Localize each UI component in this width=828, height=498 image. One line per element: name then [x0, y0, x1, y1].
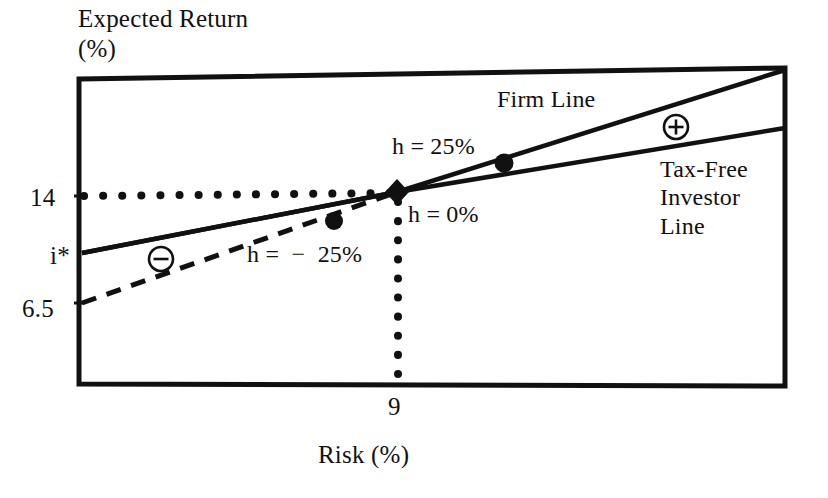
label-h-neg-25: h = − 25% [247, 240, 362, 268]
y-tick-label-istar: i* [50, 241, 70, 271]
circled-plus-icon [664, 115, 688, 139]
y-tick-label-6point5: 6.5 [22, 294, 54, 324]
chart-figure: Expected Return(%) [0, 0, 828, 498]
label-firm-line: Firm Line [497, 85, 595, 113]
plot-canvas [0, 0, 828, 498]
x-tick-label-9: 9 [388, 392, 401, 422]
label-h-25: h = 25% [392, 132, 475, 160]
reference-line-14-horizontal [84, 193, 396, 196]
marker-h-neg-25 [325, 212, 343, 230]
x-axis-title: Risk (%) [318, 440, 409, 470]
label-tax-free-line-3: Line [660, 212, 748, 240]
label-tax-free-line-1: Tax-Free [660, 155, 748, 183]
circled-minus-icon [149, 247, 173, 271]
label-tax-free-line-2: Investor [660, 183, 748, 211]
label-h-0: h = 0% [408, 200, 479, 228]
y-tick-label-14: 14 [30, 183, 55, 213]
label-tax-free-investor-line: Tax-FreeInvestorLine [660, 155, 748, 240]
marker-h-25 [495, 154, 514, 173]
marker-h-0 [385, 179, 409, 205]
